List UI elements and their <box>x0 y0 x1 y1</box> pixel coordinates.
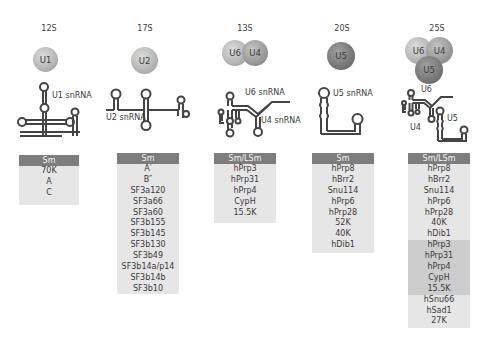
protein-item: hBrr2 <box>408 175 470 186</box>
protein-item: hSnu66 <box>408 295 470 306</box>
u4-particle: U4 <box>242 40 268 66</box>
protein-item: 27K <box>408 316 470 327</box>
protein-item: CypH <box>408 273 470 284</box>
protein-item: hPrp8 <box>408 164 470 175</box>
protein-item: hPrp6 <box>408 197 470 208</box>
u5-particle: U5 <box>415 56 443 84</box>
protein-item: hPrp3 <box>408 240 470 251</box>
protein-item: hPrp4 <box>408 262 470 273</box>
snrna-label: U6 <box>421 85 432 94</box>
snrna-label: U4 <box>410 123 421 132</box>
protein-item: hSad1 <box>408 306 470 317</box>
protein-item: hPrp31 <box>408 251 470 262</box>
table-header: Sm/LSm <box>408 153 470 164</box>
protein-item: hDib1 <box>408 229 470 240</box>
protein-item: hPrp28 <box>408 208 470 219</box>
snrna-label: U5 <box>447 114 458 123</box>
protein-item: Snu114 <box>408 186 470 197</box>
protein-item: 15.5K <box>408 284 470 295</box>
protein-table: Sm/LSm hPrp8 hBrr2 Snu114 hPrp6 hPrp28 4… <box>408 153 470 328</box>
protein-item: 40K <box>408 218 470 229</box>
